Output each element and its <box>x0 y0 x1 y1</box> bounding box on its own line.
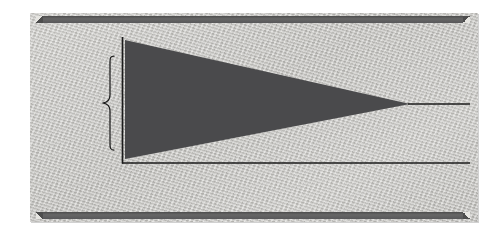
figure-root <box>0 0 500 234</box>
x-axis-category-labels <box>0 168 500 202</box>
distance-wedge <box>125 40 410 159</box>
